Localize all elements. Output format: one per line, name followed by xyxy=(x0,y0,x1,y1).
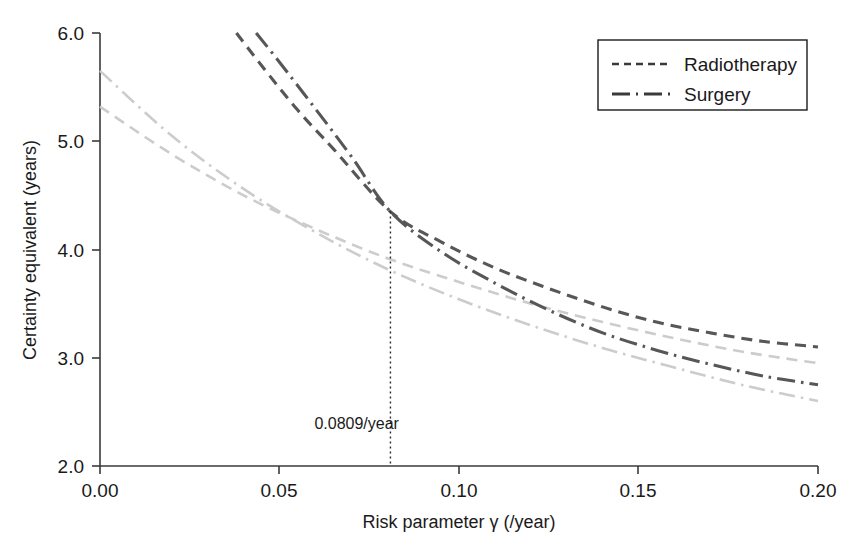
crossing-annotation: 0.0809/year xyxy=(314,212,399,466)
y-tick-label-6.0: 6.0 xyxy=(58,23,84,44)
y-axis-ticks xyxy=(92,33,100,466)
y-tick-label-2.0: 2.0 xyxy=(58,456,84,477)
legend: Radiotherapy Surgery xyxy=(598,40,807,110)
x-tick-label-0.20: 0.20 xyxy=(800,480,837,501)
x-tick-label-0.10: 0.10 xyxy=(441,480,478,501)
figure-container: 6.0 5.0 4.0 3.0 2.0 0.00 0.05 0.10 0.15 … xyxy=(0,0,860,557)
y-tick-label-3.0: 3.0 xyxy=(58,348,84,369)
legend-label-radiotherapy: Radiotherapy xyxy=(684,54,798,75)
curve-surgery-secondary xyxy=(100,71,818,401)
legend-label-surgery: Surgery xyxy=(684,84,751,105)
x-tick-label-0.05: 0.05 xyxy=(261,480,298,501)
y-axis-title: Certainty equivalent (years) xyxy=(20,140,40,360)
curve-radiotherapy-secondary xyxy=(100,107,818,364)
certainty-equivalent-line-chart: 6.0 5.0 4.0 3.0 2.0 0.00 0.05 0.10 0.15 … xyxy=(0,0,860,557)
x-axis-title: Risk parameter γ (/year) xyxy=(362,512,555,532)
x-axis-ticks xyxy=(100,466,818,474)
x-tick-label-0.15: 0.15 xyxy=(620,480,657,501)
annotation-label: 0.0809/year xyxy=(314,415,399,432)
y-tick-label-4.0: 4.0 xyxy=(58,240,84,261)
x-tick-label-0.00: 0.00 xyxy=(82,480,119,501)
caption-ghost-line xyxy=(0,543,860,557)
y-tick-label-5.0: 5.0 xyxy=(58,131,84,152)
